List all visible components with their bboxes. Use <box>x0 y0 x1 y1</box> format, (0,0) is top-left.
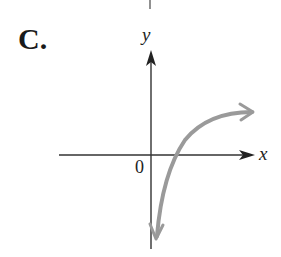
option-label: C. <box>18 22 47 56</box>
origin-label: 0 <box>135 157 144 178</box>
log-curve <box>157 112 252 236</box>
x-axis-label: x <box>259 143 267 165</box>
y-axis-label: y <box>142 24 150 46</box>
